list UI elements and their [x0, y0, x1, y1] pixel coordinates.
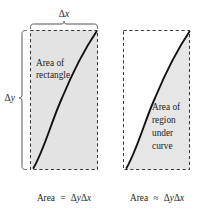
- caption-var-x: x: [86, 193, 92, 203]
- rectangle-panel: Area of rectangle Area = ΔyΔx: [31, 31, 98, 204]
- delta-x-variable: x: [64, 8, 70, 19]
- rectangle-caption-text: Area = ΔyΔx: [37, 193, 92, 203]
- caption-relation-sign: =: [60, 193, 65, 203]
- rectangle-caption: Area = ΔyΔx: [37, 193, 92, 203]
- region-panel: Area of region under curve Area ≈ ΔyΔx: [124, 31, 190, 204]
- delta-x-dimension: Δx: [31, 8, 98, 29]
- region-caption-text: Area ≈ ΔyΔx: [130, 193, 185, 203]
- region-caption: Area ≈ ΔyΔx: [130, 193, 185, 203]
- area-comparison-figure: Area of rectangle Area = ΔyΔx Area of re…: [0, 0, 206, 212]
- delta-y-label: Δy: [5, 92, 16, 103]
- region-caption-relation-sign: ≈: [153, 193, 158, 203]
- region-label-line-4: curve: [152, 141, 173, 151]
- rectangle-shaded-area: [31, 31, 98, 170]
- rectangle-label-line-2: rectangle: [36, 70, 70, 80]
- delta-x-label: Δx: [59, 8, 70, 19]
- rectangle-label-line-1: Area of: [36, 58, 65, 68]
- delta-y-variable: y: [10, 92, 16, 103]
- region-caption-var-x: x: [179, 193, 185, 203]
- region-label-line-1: Area of: [152, 102, 181, 112]
- region-caption-word-area: Area: [130, 193, 148, 203]
- delta-y-dimension: Δy: [5, 31, 27, 170]
- caption-word-area: Area: [37, 193, 55, 203]
- region-label-line-3: under: [152, 128, 174, 138]
- region-label-line-2: region: [152, 115, 176, 125]
- horizontal-brace-icon: [31, 21, 98, 28]
- vertical-brace-icon: [19, 31, 26, 170]
